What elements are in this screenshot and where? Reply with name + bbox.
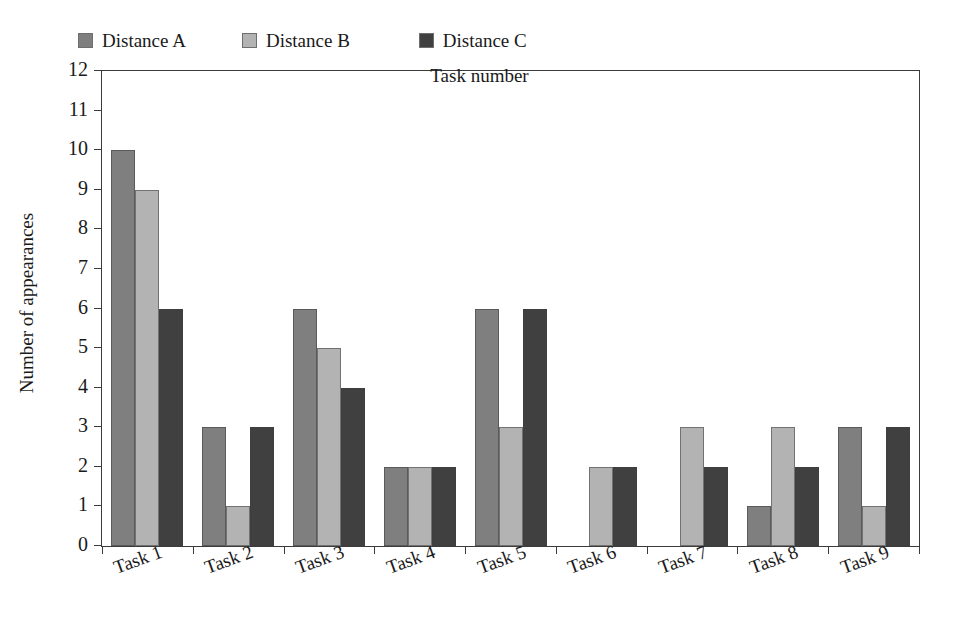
- x-axis-tick-mark: [737, 547, 738, 554]
- y-axis-tick-mark: [94, 189, 101, 190]
- bar-task-5-distance-c: [523, 309, 547, 547]
- legend-entry-distance-b: Distance B: [242, 28, 350, 52]
- x-axis-tick-label: Task 8: [747, 542, 800, 577]
- y-axis-tick-mark: [94, 149, 101, 150]
- y-axis-tick-mark: [94, 466, 101, 467]
- x-axis-tick-mark: [647, 547, 648, 554]
- bar-task-2-distance-a: [202, 427, 226, 546]
- y-axis-tick-label: 4: [78, 376, 88, 396]
- y-axis-tick-label: 5: [78, 336, 88, 356]
- bar-task-2-distance-b: [226, 506, 250, 546]
- bar-task-8-distance-c: [795, 467, 819, 546]
- bar-task-1-distance-b: [135, 190, 159, 546]
- bar-task-1-distance-c: [159, 309, 183, 547]
- bar-task-7-distance-c: [704, 467, 728, 546]
- x-axis-tick-mark: [828, 547, 829, 554]
- bar-task-9-distance-b: [862, 506, 886, 546]
- x-axis-tick-label: Task 5: [475, 542, 528, 577]
- x-axis-tick-mark: [284, 547, 285, 554]
- y-axis-title: Number of appearances: [16, 193, 38, 413]
- bar-task-4-distance-c: [432, 467, 456, 546]
- bar-task-4-distance-a: [384, 467, 408, 546]
- x-axis-tick-mark: [556, 547, 557, 554]
- plot-area: [102, 71, 919, 546]
- bar-task-9-distance-a: [838, 427, 862, 546]
- legend-entry-distance-a: Distance A: [78, 28, 186, 52]
- y-axis-tick-mark: [94, 505, 101, 506]
- y-axis-tick-label: 8: [78, 217, 88, 237]
- y-axis-tick-label: 6: [78, 297, 88, 317]
- x-axis-tick-mark: [102, 547, 103, 554]
- x-axis-tick-label: Task 3: [293, 542, 346, 577]
- y-axis-tick-mark: [94, 268, 101, 269]
- bar-task-8-distance-b: [771, 427, 795, 546]
- bar-task-7-distance-b: [680, 427, 704, 546]
- bar-task-5-distance-b: [499, 427, 523, 546]
- y-axis-tick-label: 11: [69, 99, 88, 119]
- x-axis-tick-label: Task 2: [202, 542, 255, 577]
- bar-task-9-distance-c: [886, 427, 910, 546]
- bar-task-3-distance-b: [317, 348, 341, 546]
- x-axis-tick-label: Task 9: [838, 542, 891, 577]
- y-axis-tick-mark: [94, 308, 101, 309]
- bar-task-6-distance-b: [589, 467, 613, 546]
- x-axis-tick-label: Task 7: [656, 542, 709, 577]
- y-axis-tick-mark: [94, 110, 101, 111]
- legend-swatch-icon-distance-b: [242, 33, 257, 48]
- y-axis-tick-mark: [94, 347, 101, 348]
- chart-legend: Distance A Distance B Distance C: [78, 28, 527, 52]
- x-axis-title: Task number: [0, 65, 959, 87]
- bar-task-2-distance-c: [250, 427, 274, 546]
- y-axis-tick-label: 9: [78, 178, 88, 198]
- legend-entry-distance-c: Distance C: [419, 28, 527, 52]
- bar-task-1-distance-a: [111, 150, 135, 546]
- legend-swatch-icon-distance-c: [419, 33, 434, 48]
- legend-label-distance-c: Distance C: [443, 31, 527, 50]
- y-axis-tick-label: 1: [78, 494, 88, 514]
- x-axis-tick-label: Task 1: [111, 542, 164, 577]
- bar-chart-figure: Distance A Distance B Distance C 0123456…: [0, 0, 959, 639]
- bar-task-6-distance-c: [613, 467, 637, 546]
- x-axis-tick-label: Task 6: [565, 542, 618, 577]
- bar-task-4-distance-b: [408, 467, 432, 546]
- x-axis-tick-mark: [919, 547, 920, 554]
- bar-task-3-distance-c: [341, 388, 365, 546]
- y-axis-tick-label: 2: [78, 455, 88, 475]
- y-axis-tick-label: 7: [78, 257, 88, 277]
- y-axis-tick-mark: [94, 426, 101, 427]
- x-axis: Task 1Task 2Task 3Task 4Task 5Task 6Task…: [0, 547, 959, 639]
- y-axis-tick-mark: [94, 545, 101, 546]
- bar-task-5-distance-a: [475, 309, 499, 547]
- bar-task-3-distance-a: [293, 309, 317, 547]
- legend-label-distance-b: Distance B: [266, 31, 350, 50]
- y-axis-tick-mark: [94, 228, 101, 229]
- legend-swatch-icon-distance-a: [78, 33, 93, 48]
- y-axis-tick-label: 3: [78, 415, 88, 435]
- x-axis-tick-label: Task 4: [384, 542, 437, 577]
- legend-label-distance-a: Distance A: [102, 31, 186, 50]
- y-axis-tick-mark: [94, 387, 101, 388]
- y-axis-tick-label: 10: [68, 138, 88, 158]
- x-axis-tick-mark: [465, 547, 466, 554]
- plot-frame: [101, 70, 920, 547]
- bar-task-8-distance-a: [747, 506, 771, 546]
- x-axis-tick-mark: [193, 547, 194, 554]
- x-axis-tick-mark: [374, 547, 375, 554]
